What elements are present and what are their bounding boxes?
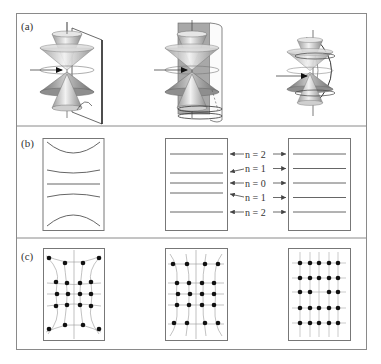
level-label: n = 2 [245,149,266,160]
curved-lines-box [43,139,104,231]
cones-with-cylinder [154,20,222,122]
regular-grid-dots [289,249,351,341]
panel-b: (b) [21,137,351,231]
figure: (a) [0,0,381,364]
level-label-row: n = 1 [230,192,286,203]
panel-c-label: (c) [21,250,34,263]
uneven-lines-box [166,139,228,231]
panel-a: (a) [21,20,335,124]
panel-a-label: (a) [21,20,34,33]
level-label: n = 1 [245,163,266,174]
level-label: n = 1 [245,192,266,203]
mildly-distorted-grid-dots [166,249,228,341]
level-label: n = 0 [245,178,266,189]
cones-with-sphere [276,30,335,116]
level-label-row: n = 2 [230,149,286,160]
distorted-grid-dots [44,249,105,341]
level-label-row: n = 0 [230,178,286,189]
level-label-row: n = 2 [230,207,286,218]
panel-c: (c) [21,249,351,341]
level-label: n = 2 [245,207,266,218]
level-label-row: n = 1 [230,163,286,174]
cones-with-plane [30,22,102,124]
even-lines-box [289,139,351,231]
level-labels: n = 2 n = 1 n = 0 n = 1 n = 2 [230,149,286,218]
panel-b-label: (b) [21,137,34,150]
